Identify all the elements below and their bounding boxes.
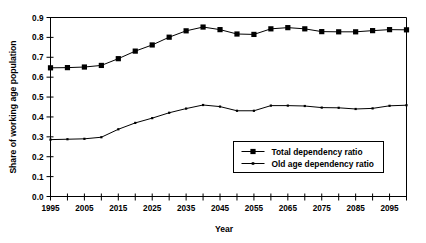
y-axis-title: Share of working age population (8, 40, 18, 173)
data-point-marker (404, 27, 409, 32)
legend-marker (252, 162, 255, 165)
y-tick-label: 0.8 (32, 33, 44, 42)
x-tick-label: 2015 (109, 204, 128, 213)
series-old-age-dependency-ratio (49, 104, 407, 141)
data-point-marker (133, 49, 138, 54)
data-point-marker (321, 107, 323, 109)
data-point-marker (116, 56, 121, 61)
y-tick-label: 0.3 (32, 133, 44, 142)
data-point-marker (236, 110, 238, 112)
data-point-marker (200, 24, 205, 29)
chart-legend: Total dependency ratioOld age dependency… (234, 142, 384, 173)
data-point-marker (49, 139, 51, 141)
data-point-marker (253, 110, 255, 112)
data-point-marker (100, 136, 102, 138)
legend-marker (250, 149, 255, 154)
data-point-marker (302, 26, 307, 31)
x-tick-label: 2065 (279, 204, 298, 213)
data-point-marker (287, 105, 289, 107)
x-tick-label: 2045 (211, 204, 230, 213)
x-tick-label: 2005 (75, 204, 94, 213)
data-point-marker (168, 112, 170, 114)
data-point-marker (99, 63, 104, 68)
y-tick-label: 0.5 (32, 93, 44, 102)
data-point-marker (251, 32, 256, 37)
data-point-marker (65, 65, 70, 70)
data-point-marker (370, 28, 375, 33)
data-point-marker (117, 128, 119, 130)
data-point-marker (336, 29, 341, 34)
x-tick-label: 2025 (143, 204, 162, 213)
data-point-marker (338, 107, 340, 109)
data-point-marker (48, 65, 53, 70)
data-point-marker (185, 107, 187, 109)
series-line (51, 105, 407, 140)
data-point-marker (270, 105, 272, 107)
series-layer (48, 24, 409, 140)
x-tick-label: 2055 (245, 204, 264, 213)
y-tick-label: 0.0 (32, 193, 44, 202)
legend-label: Old age dependency ratio (272, 159, 374, 169)
data-point-marker (304, 105, 306, 107)
y-tick-label: 0.9 (32, 14, 44, 23)
data-point-marker (167, 35, 172, 40)
series-total-dependency-ratio (48, 24, 409, 70)
data-point-marker (66, 138, 68, 140)
y-tick-label: 0.4 (32, 113, 44, 122)
x-axis-title: Year (215, 224, 234, 234)
data-point-marker (319, 29, 324, 34)
x-tick-label: 1995 (41, 204, 60, 213)
data-point-marker (151, 117, 153, 119)
y-tick-label: 0.1 (32, 173, 44, 182)
x-tick-label: 2075 (313, 204, 332, 213)
data-point-marker (184, 28, 189, 33)
data-point-marker (234, 31, 239, 36)
data-point-marker (82, 64, 87, 69)
x-tick-label: 2095 (380, 204, 399, 213)
data-point-marker (217, 27, 222, 32)
data-point-marker (134, 122, 136, 124)
data-point-marker (83, 138, 85, 140)
y-tick-label: 0.7 (32, 53, 44, 62)
x-tick-label: 2085 (347, 204, 366, 213)
y-tick-label: 0.2 (32, 153, 44, 162)
data-point-marker (285, 25, 290, 30)
data-point-marker (387, 27, 392, 32)
data-point-marker (268, 26, 273, 31)
data-point-marker (372, 107, 374, 109)
dependency-ratio-line-chart: 0.00.10.20.30.40.50.60.70.80.9 199520052… (0, 0, 426, 243)
x-tick-label: 2035 (177, 204, 196, 213)
data-point-marker (202, 104, 204, 106)
data-point-marker (219, 106, 221, 108)
chart-figure: 0.00.10.20.30.40.50.60.70.80.9 199520052… (0, 0, 426, 243)
data-point-marker (353, 29, 358, 34)
data-point-marker (405, 104, 407, 106)
data-point-marker (355, 108, 357, 110)
data-point-marker (388, 105, 390, 107)
legend-label: Total dependency ratio (272, 147, 363, 157)
y-tick-label: 0.6 (32, 73, 44, 82)
data-point-marker (150, 42, 155, 47)
